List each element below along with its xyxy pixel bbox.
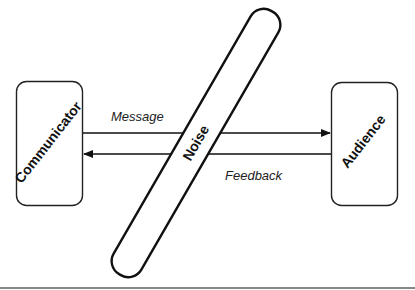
communication-diagram: Communicator Audience Noise Message Feed… — [0, 0, 415, 290]
audience-node: Audience — [332, 83, 398, 206]
message-label: Message — [111, 109, 164, 124]
noise-node: Noise — [106, 3, 286, 282]
feedback-label: Feedback — [225, 168, 284, 183]
communicator-node: Communicator — [11, 82, 85, 206]
